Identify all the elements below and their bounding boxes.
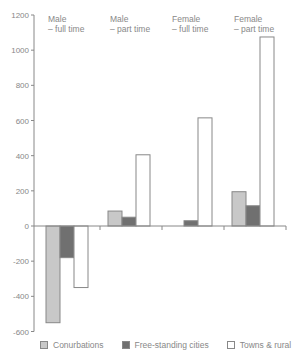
group-label: Female– part time	[234, 14, 274, 34]
bars	[46, 37, 274, 323]
bar	[46, 226, 60, 323]
bar	[260, 37, 274, 226]
bar	[136, 155, 150, 226]
y-tick-label: -600	[13, 328, 30, 337]
bar	[74, 226, 88, 288]
bar	[232, 192, 246, 226]
y-tick-label: 0	[25, 222, 30, 231]
bar	[246, 206, 260, 226]
y-axis: 120010008006004002000-200-400-600	[11, 11, 34, 337]
bar	[198, 118, 212, 226]
legend-swatch-towns-rural	[227, 341, 235, 349]
legend-label: Conurbations	[53, 340, 104, 350]
y-tick-label: 400	[16, 152, 30, 161]
y-tick-label: 1000	[11, 46, 29, 55]
legend-item-free-standing-cities: Free-standing cities	[122, 340, 209, 350]
y-tick-label: -400	[13, 292, 30, 301]
legend-label: Towns & rural	[240, 340, 292, 350]
group-label: Female– full time	[172, 14, 209, 34]
bar	[184, 221, 198, 226]
legend-item-towns-rural: Towns & rural	[227, 340, 292, 350]
y-tick-label: -200	[13, 257, 30, 266]
bar	[60, 226, 74, 258]
bar	[108, 211, 122, 226]
y-tick-label: 200	[16, 187, 30, 196]
bar	[122, 217, 136, 226]
group-label: Male– part time	[110, 14, 150, 34]
bar-chart: 120010008006004002000-200-400-600 Male– …	[0, 0, 299, 364]
legend-swatch-free-standing-cities	[122, 341, 130, 349]
group-labels: Male– full timeMale– part timeFemale– fu…	[48, 14, 274, 34]
group-label: Male– full time	[48, 14, 85, 34]
y-tick-label: 1200	[11, 11, 29, 20]
y-tick-label: 600	[16, 117, 30, 126]
legend-swatch-conurbations	[40, 341, 48, 349]
legend-label: Free-standing cities	[135, 340, 209, 350]
legend: Conurbations Free-standing cities Towns …	[40, 340, 291, 350]
legend-item-conurbations: Conurbations	[40, 340, 104, 350]
y-tick-label: 800	[16, 81, 30, 90]
